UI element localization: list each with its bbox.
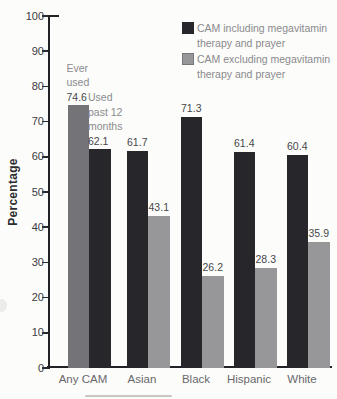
bar-value-label: 26.2 [193, 261, 233, 274]
bar-black-1 [202, 276, 224, 368]
y-tick-label: 40 [0, 221, 44, 234]
y-tick-label: 30 [0, 256, 44, 269]
bar-asian-0 [127, 151, 149, 368]
y-tick-label: 60 [0, 150, 44, 163]
y-tick-label: 10 [0, 326, 44, 339]
x-label-white: White [267, 373, 337, 385]
y-tick-label: 50 [0, 186, 44, 199]
bar-any-cam-1 [89, 149, 111, 368]
bar-value-label: 61.4 [224, 137, 264, 150]
legend-swatch-dark [182, 22, 194, 34]
y-axis-line [48, 16, 50, 369]
legend-label: CAM including megavitamin therapy and pr… [197, 21, 335, 51]
bar-value-label: 60.4 [277, 140, 317, 153]
y-tick-label: 80 [0, 80, 44, 93]
y-tick-label: 90 [0, 45, 44, 58]
bar-white-1 [308, 242, 330, 368]
plot-area: 0102030405060708090100Ever used74.6Used … [0, 0, 337, 399]
bar-asian-1 [148, 216, 170, 368]
bar-black-0 [181, 117, 203, 368]
bar-value-label: 43.1 [139, 201, 179, 214]
bar-value-label: 61.7 [117, 136, 157, 149]
bar-white-0 [287, 155, 309, 368]
bar-value-label: 71.3 [171, 102, 211, 115]
bar-any-cam-0 [68, 105, 90, 368]
bar-value-label: 35.9 [299, 227, 337, 240]
y-tick-label: 100 [0, 10, 44, 23]
bar-annotation-text: Ever used [67, 61, 103, 90]
cam-prevalence-bar-chart: Percentage 0102030405060708090100Ever us… [0, 0, 337, 399]
legend-label: CAM excluding megavitamin therapy and pr… [197, 52, 335, 82]
bar-value-label: 28.3 [246, 253, 286, 266]
y-tick-label: 0 [0, 362, 44, 375]
y-tick-label: 70 [0, 115, 44, 128]
legend-swatch-gray [182, 53, 194, 65]
bar-annotation-text: Used past 12 months [88, 90, 124, 134]
bar-hispanic-1 [255, 268, 277, 368]
axis-top-corner [48, 15, 59, 17]
scan-artifact-line [85, 395, 172, 398]
